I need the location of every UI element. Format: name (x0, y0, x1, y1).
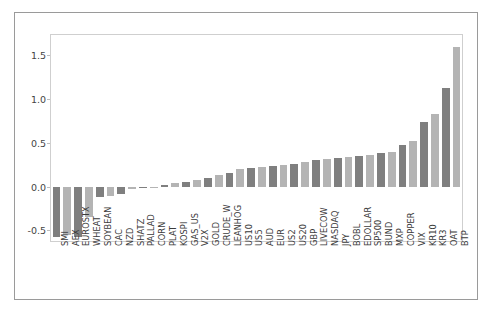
bar-shatz (128, 187, 136, 190)
x-tick-label-gas_us: GAS_US (190, 213, 200, 246)
x-tick-label-edollar: EDOLLAR (363, 207, 373, 246)
bar-mxp (388, 152, 396, 187)
bar-plat (161, 185, 169, 187)
x-tick-label-wheat: WHEAT (92, 216, 102, 246)
bar-cac (107, 187, 115, 197)
bar-kospi (171, 183, 179, 187)
x-tick-label-us10: US10 (244, 224, 254, 246)
x-tick-label-mxp: MXP (395, 228, 405, 246)
bar-us2 (280, 165, 288, 187)
x-tick-label-cac: CAC (114, 229, 124, 246)
x-tick-label-v2x: V2X (200, 229, 210, 246)
x-tick-label-kospi: KOSPI (179, 222, 189, 246)
bar-eur (269, 166, 277, 186)
bar-v2x (193, 180, 201, 187)
bar-livecow (312, 160, 320, 186)
x-tick-label-sp500: SP500 (373, 220, 383, 246)
x-tick-label-oat: OAT (449, 229, 459, 246)
y-tick-label: 1.5 (31, 50, 46, 61)
y-tick-mark (47, 230, 50, 231)
y-tick-mark (47, 55, 50, 56)
x-tick-label-us2: US2 (287, 229, 297, 246)
bar-us20 (290, 164, 298, 187)
x-tick-label-pallad: PALLAD (146, 214, 156, 246)
y-axis-tick-labels: -0.50.00.51.01.5 (14, 0, 46, 317)
bar-crude_w (215, 175, 223, 186)
bar-jpy (334, 158, 342, 187)
bar-oat (442, 88, 450, 186)
y-tick-label: -0.5 (27, 225, 46, 236)
y-tick-mark (47, 143, 50, 144)
x-tick-label-nasdaq: NASDAQ (330, 210, 340, 246)
bar-gas_us (182, 182, 190, 186)
x-tick-label-plat: PLAT (168, 226, 178, 246)
x-tick-label-gbp: GBP (309, 229, 319, 246)
bar-gbp (301, 162, 309, 187)
bar-edollar (355, 156, 363, 187)
x-tick-label-vix: VIX (417, 232, 427, 246)
x-tick-label-smi: SMI (60, 231, 70, 246)
bar-bobl (345, 157, 353, 187)
bar-corn (150, 187, 158, 188)
bar-gold (204, 178, 212, 187)
x-tick-label-kr3: KR3 (438, 229, 448, 246)
figure-canvas: -0.50.00.51.01.5 SMIAEXEUROSTXWHEATSOYBE… (0, 0, 493, 317)
x-tick-label-leanhog: LEANHOG (233, 205, 243, 246)
y-tick-label: 1.0 (31, 93, 46, 104)
x-tick-label-us5: US5 (254, 229, 264, 246)
x-tick-label-soybean: SOYBEAN (103, 207, 113, 246)
x-tick-label-bobl: BOBL (352, 224, 362, 247)
bar-sp500 (366, 155, 374, 187)
y-tick-mark (47, 99, 50, 100)
bar-kr3 (431, 114, 439, 187)
bar-nzd (117, 187, 125, 194)
bar-smi (53, 187, 61, 238)
x-tick-label-kr10: KR10 (428, 224, 438, 246)
x-tick-label-bund: BUND (384, 222, 394, 246)
y-tick-label: 0.0 (31, 181, 46, 192)
bar-us10 (236, 169, 244, 187)
x-tick-label-crude_w: CRUDE_W (222, 204, 232, 246)
bar-aex (63, 187, 71, 235)
x-axis-tick-labels: SMIAEXEUROSTXWHEATSOYBEANCACNZDSHATZPALL… (51, 244, 462, 300)
bar-copper (399, 145, 407, 187)
bar-aud (258, 167, 266, 186)
x-tick-label-btp: BTP (460, 230, 470, 246)
bar-btp (453, 47, 461, 186)
x-tick-label-copper: COPPER (406, 213, 416, 247)
x-tick-label-corn: CORN (157, 222, 167, 246)
bar-soybean (96, 187, 104, 198)
x-tick-label-nzd: NZD (125, 228, 135, 246)
bar-bund (377, 153, 385, 186)
x-tick-label-jpy: JPY (341, 234, 351, 246)
y-tick-label: 0.5 (31, 137, 46, 148)
x-tick-label-us20: US20 (298, 224, 308, 246)
x-tick-label-eur: EUR (276, 229, 286, 246)
x-tick-label-aex: AEX (71, 229, 81, 246)
bar-us5 (247, 168, 255, 186)
x-tick-label-livecow: LIVECOW (319, 207, 329, 246)
bar-nasdaq (323, 159, 331, 186)
x-tick-label-gold: GOLD (211, 222, 221, 246)
x-tick-label-aud: AUD (265, 228, 275, 246)
x-tick-label-eurostx: EUROSTX (81, 206, 91, 246)
bar-vix (409, 141, 417, 187)
bar-leanhog (226, 173, 234, 187)
x-tick-label-shatz: SHATZ (136, 219, 146, 246)
y-tick-mark (47, 187, 50, 188)
bar-kr10 (420, 122, 428, 187)
bar-pallad (139, 187, 147, 189)
